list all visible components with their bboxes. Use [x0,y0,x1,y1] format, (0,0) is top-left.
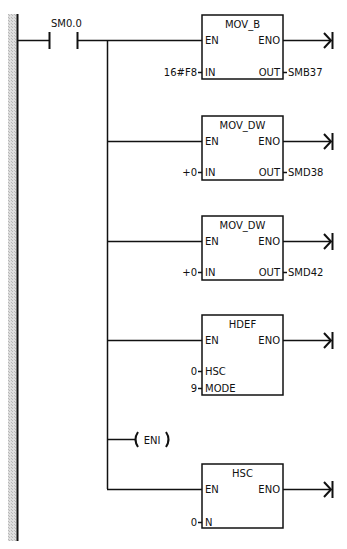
hsc-value: 0 [191,366,197,377]
en-pin: EN [205,136,219,147]
contact-label: SM0.0 [51,18,82,29]
eno-pin: ENO [258,236,280,247]
out-value: SMB37 [288,67,323,78]
block-mov-dw-1[interactable]: MOV_DW EN ENO IN OUT +0 SMD38 [182,116,332,180]
en-pin: EN [205,236,219,247]
in-pin: IN [205,167,215,178]
eno-pin: ENO [258,35,280,46]
block-hsc[interactable]: HSC EN ENO N 0 [191,464,333,528]
in-value: +0 [182,167,197,178]
power-rail [8,14,18,541]
out-value: SMD38 [288,167,323,178]
block-mov-dw-2[interactable]: MOV_DW EN ENO IN OUT +0 SMD42 [182,216,332,280]
contact-sm0-0[interactable]: SM0.0 [18,18,82,49]
hsc-pin: HSC [205,366,226,377]
en-pin: EN [205,35,219,46]
en-pin: EN [205,335,219,346]
n-value: 0 [191,517,197,528]
in-pin: IN [205,67,215,78]
coil-eni[interactable]: ENI [136,432,169,447]
block-title: HDEF [229,319,257,330]
en-pin: EN [205,484,219,495]
in-pin: IN [205,267,215,278]
eno-pin: ENO [258,136,280,147]
in-value: 16#F8 [164,67,197,78]
block-hdef[interactable]: HDEF EN ENO HSC 0 MODE 9 [191,315,333,395]
ladder-diagram: SM0.0 MOV_B EN ENO IN OUT 16#F8 SMB37 MO… [0,0,347,549]
eno-pin: ENO [258,335,280,346]
out-pin: OUT [259,67,281,78]
block-mov-b[interactable]: MOV_B EN ENO IN OUT 16#F8 SMB37 [164,15,333,79]
block-title: MOV_DW [220,220,266,232]
out-pin: OUT [259,267,281,278]
in-value: +0 [182,267,197,278]
mode-pin: MODE [205,383,236,394]
mode-value: 9 [191,383,197,394]
block-title: MOV_B [225,19,260,31]
block-title: MOV_DW [220,120,266,132]
n-pin: N [205,517,212,528]
eno-pin: ENO [258,484,280,495]
block-title: HSC [232,468,253,479]
coil-label: ENI [144,435,161,446]
out-value: SMD42 [288,267,323,278]
rung-wiring [78,40,202,490]
out-pin: OUT [259,167,281,178]
